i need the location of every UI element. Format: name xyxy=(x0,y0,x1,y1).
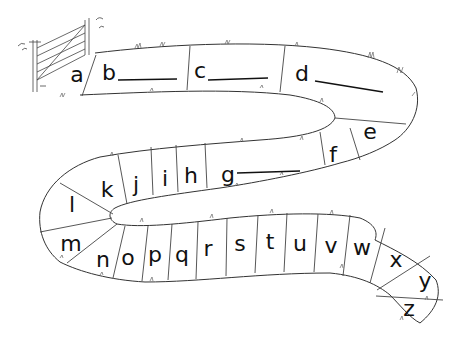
letter-y: y xyxy=(418,268,431,293)
letter-s: s xyxy=(234,231,245,256)
letter-r: r xyxy=(203,236,213,261)
letter-d: d xyxy=(295,61,309,86)
letter-m: m xyxy=(60,231,81,256)
letter-f: f xyxy=(329,142,338,167)
letter-g: g xyxy=(221,162,235,187)
gate-icon xyxy=(18,18,104,92)
blank-line-g xyxy=(237,171,300,173)
letter-u: u xyxy=(293,231,307,256)
blank-line-d xyxy=(315,81,383,92)
letter-i: i xyxy=(162,166,168,191)
letter-v: v xyxy=(324,233,337,258)
letter-z: z xyxy=(403,296,415,321)
blank-line-b xyxy=(118,79,177,80)
path-road xyxy=(40,44,439,323)
blank-line-c xyxy=(208,78,268,80)
alphabet-path-illustration: abcdefghijklmnopqrstuvwxyz xyxy=(0,0,471,363)
letter-q: q xyxy=(175,242,189,267)
letter-c: c xyxy=(194,58,206,83)
letter-x: x xyxy=(389,247,402,272)
letter-b: b xyxy=(102,60,116,85)
letter-w: w xyxy=(353,235,371,260)
letter-t: t xyxy=(266,229,275,254)
letter-n: n xyxy=(96,247,110,272)
letter-e: e xyxy=(363,119,377,144)
letter-o: o xyxy=(121,245,134,270)
letter-l: l xyxy=(69,192,75,217)
letter-h: h xyxy=(184,163,198,188)
letter-cells: abcdefghijklmnopqrstuvwxyz xyxy=(60,58,431,321)
letter-k: k xyxy=(101,177,114,202)
letter-p: p xyxy=(148,242,162,267)
letter-j: j xyxy=(132,172,139,197)
letter-a: a xyxy=(70,62,83,87)
